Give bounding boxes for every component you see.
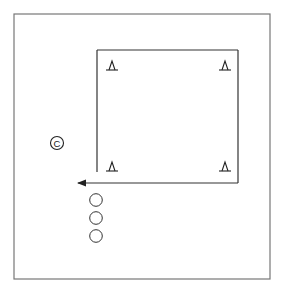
coach-marker: C	[51, 137, 64, 150]
cone-icon	[106, 162, 118, 171]
player-icon	[90, 230, 103, 243]
field-border	[14, 14, 270, 279]
cone-icon	[219, 162, 231, 171]
coach-label: C	[54, 138, 61, 149]
drill-diagram: C	[0, 0, 286, 293]
cone-icon	[106, 61, 118, 70]
cones	[106, 61, 231, 171]
player-icon	[90, 212, 103, 225]
cone-icon	[219, 61, 231, 70]
player-icon	[90, 194, 103, 207]
player-queue	[90, 194, 103, 243]
route-square	[97, 50, 238, 183]
